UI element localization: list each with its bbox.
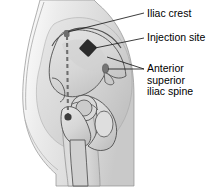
iliac-crest-marker xyxy=(64,30,70,37)
asis-marker xyxy=(103,64,109,73)
label-asis-line-3: iliac spine xyxy=(147,86,193,98)
label-asis-line-1: Anterior xyxy=(147,63,193,75)
greater-trochanter-marker xyxy=(64,113,71,120)
label-anterior-superior-iliac-spine: Anterior superior iliac spine xyxy=(147,63,193,98)
femoral-shaft xyxy=(70,140,88,186)
anatomical-illustration xyxy=(0,0,217,196)
label-injection-site: Injection site xyxy=(147,32,205,44)
label-iliac-crest: Iliac crest xyxy=(147,8,191,20)
obturator-foramen xyxy=(95,111,113,137)
label-iliac-crest-line-1: Iliac crest xyxy=(147,8,191,20)
label-injection-site-line-1: Injection site xyxy=(147,32,205,44)
